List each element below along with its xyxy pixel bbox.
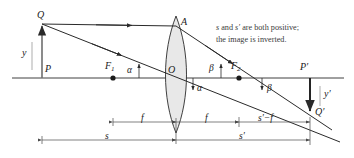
- focal-point-f1-dot: [110, 75, 115, 80]
- label-point-f1-subscript: 1: [111, 65, 115, 73]
- parallel-ray-direction-arrow: [96, 25, 132, 26]
- thin-lens-ray-diagram: Q P y A O F1 F2 P′ Q′ y′ α α β β f f s′−…: [0, 0, 354, 158]
- note-conjunction: and: [219, 23, 235, 32]
- label-angle-alpha-lower: α: [197, 84, 202, 94]
- label-point-f2-subscript: 2: [237, 65, 241, 73]
- sign-convention-note-line2: the image is inverted.: [216, 34, 299, 46]
- label-angle-beta-lower: β: [267, 84, 272, 94]
- label-dimension-focal-left: f: [141, 114, 144, 124]
- label-point-p: P: [45, 64, 51, 74]
- label-point-o: O: [168, 65, 175, 75]
- chief-ray-direction-arrow: [92, 44, 122, 56]
- label-point-f2: F2: [231, 61, 241, 73]
- sign-convention-note: s and s′ are both positive; the image is…: [216, 22, 299, 45]
- label-point-a: A: [181, 17, 187, 27]
- label-dimension-s-minus-f: s′−f: [258, 114, 273, 124]
- label-angle-alpha-upper: α: [127, 66, 132, 76]
- label-angle-beta-upper: β: [209, 64, 214, 74]
- refracted-ray-direction-arrow: [205, 45, 233, 64]
- diagram-canvas: [0, 0, 354, 158]
- label-dimension-object-distance: s: [105, 132, 109, 142]
- label-point-q-prime: Q′: [315, 107, 324, 117]
- note-line1-tail: are both positive;: [240, 23, 299, 32]
- sign-convention-note-line1: s and s′ are both positive;: [216, 22, 299, 34]
- label-dimension-focal-right: f: [205, 114, 208, 124]
- label-point-f1: F1: [105, 61, 115, 73]
- label-dimension-image-distance: s′: [239, 132, 245, 142]
- label-point-q: Q: [37, 10, 44, 20]
- label-point-p-prime: P′: [300, 62, 308, 72]
- label-image-height: y′: [324, 89, 331, 99]
- focal-point-f2-dot: [236, 75, 241, 80]
- label-object-height: y: [22, 48, 26, 58]
